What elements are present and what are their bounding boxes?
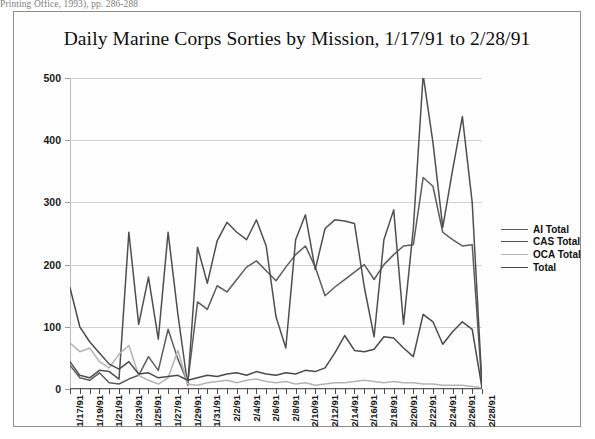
y-axis-label: 200 — [43, 259, 61, 271]
legend-color-swatch — [501, 267, 528, 268]
x-axis-tick — [423, 389, 424, 394]
x-axis-tick — [70, 389, 71, 394]
legend-label: Total — [533, 262, 556, 273]
x-axis-tick — [148, 389, 149, 394]
x-axis-tick — [90, 389, 91, 394]
chart-title: Daily Marine Corps Sorties by Mission, 1… — [14, 28, 580, 50]
plot-area: 0100200300400500 — [70, 78, 482, 389]
x-axis-tick — [305, 389, 306, 394]
x-axis-label: 2/6/91 — [270, 395, 281, 421]
x-axis-label: 1/27/91 — [172, 395, 183, 427]
x-axis-tick — [168, 389, 169, 394]
x-axis-tick — [237, 389, 238, 394]
legend-color-swatch — [501, 229, 528, 230]
x-axis-label: 1/19/91 — [94, 395, 105, 427]
x-axis-tick — [217, 389, 218, 394]
x-axis-label: 2/8/91 — [290, 395, 301, 421]
x-axis-tick — [374, 389, 375, 394]
x-axis-label: 1/23/91 — [133, 395, 144, 427]
x-axis-tick — [119, 389, 120, 394]
x-axis-tick — [80, 389, 81, 394]
x-axis-tick — [276, 389, 277, 394]
x-axis-label: 2/18/91 — [388, 395, 399, 427]
x-axis-tick — [178, 389, 179, 394]
x-axis-tick — [286, 389, 287, 394]
x-axis-label: 1/25/91 — [152, 395, 163, 427]
x-axis-tick — [109, 389, 110, 394]
legend-color-swatch — [501, 241, 528, 242]
x-axis-tick — [315, 389, 316, 394]
x-axis-tick — [413, 389, 414, 394]
x-axis-label: 1/31/91 — [211, 395, 222, 427]
legend-item: OCA Total — [501, 248, 595, 261]
x-axis-label: 1/29/91 — [192, 395, 203, 427]
y-axis-label: 400 — [43, 134, 61, 146]
x-axis-tick — [158, 389, 159, 394]
series-lines — [70, 78, 482, 389]
scan-artifact-text: Printing Office, 1993), pp. 286-288 — [0, 0, 260, 11]
x-axis-labels: 1/17/911/19/911/21/911/23/911/25/911/27/… — [70, 395, 482, 439]
x-axis-label: 1/17/91 — [74, 395, 85, 427]
legend-item: Total — [501, 261, 595, 274]
x-axis-tick — [256, 389, 257, 394]
x-axis-tick — [198, 389, 199, 394]
data-series-line — [70, 78, 482, 385]
legend-label: AI Total — [533, 224, 569, 235]
x-axis-tick — [207, 389, 208, 394]
x-axis-label: 2/26/91 — [466, 395, 477, 427]
x-axis-tick — [247, 389, 248, 394]
x-axis-tick — [335, 389, 336, 394]
x-axis-tick — [99, 389, 100, 394]
legend-label: CAS Total — [533, 236, 580, 247]
x-axis-tick — [472, 389, 473, 394]
x-axis-label: 2/20/91 — [408, 395, 419, 427]
chart-legend: AI TotalCAS TotalOCA TotalTotal — [501, 223, 595, 273]
y-axis-label: 500 — [43, 72, 61, 84]
legend-label: OCA Total — [533, 249, 581, 260]
x-axis-tick — [453, 389, 454, 394]
x-axis-label: 2/22/91 — [427, 395, 438, 427]
figure-frame: Daily Marine Corps Sorties by Mission, 1… — [13, 11, 581, 427]
x-axis-tick — [443, 389, 444, 394]
x-axis-label: 2/16/91 — [368, 395, 379, 427]
y-axis-label: 100 — [43, 321, 61, 333]
x-axis-label: 2/24/91 — [447, 395, 458, 427]
x-axis-tick — [462, 389, 463, 394]
x-axis-tick — [139, 389, 140, 394]
x-axis-tick — [266, 389, 267, 394]
data-series-line — [70, 288, 482, 388]
x-axis-tick — [433, 389, 434, 394]
x-axis-tick — [296, 389, 297, 394]
x-axis-label: 2/12/91 — [329, 395, 340, 427]
x-axis-label: 2/4/91 — [251, 395, 262, 421]
x-axis-tick — [188, 389, 189, 394]
x-axis-tick — [364, 389, 365, 394]
x-axis-tick — [227, 389, 228, 394]
y-axis-label: 300 — [43, 196, 61, 208]
legend-item: AI Total — [501, 223, 595, 236]
legend-item: CAS Total — [501, 236, 595, 249]
x-axis-tick — [345, 389, 346, 394]
x-axis-label: 2/28/91 — [486, 395, 497, 427]
x-axis-label: 2/10/91 — [309, 395, 320, 427]
x-axis-label: 2/14/91 — [349, 395, 360, 427]
x-axis-tick — [129, 389, 130, 394]
x-axis-label: 1/21/91 — [113, 395, 124, 427]
x-axis-tick — [394, 389, 395, 394]
x-axis-tick — [325, 389, 326, 394]
x-axis-tick — [482, 389, 483, 394]
x-axis-label: 2/2/91 — [231, 395, 242, 421]
legend-color-swatch — [501, 254, 528, 255]
x-axis-tick — [384, 389, 385, 394]
y-axis-label: 0 — [55, 383, 61, 395]
x-axis-tick — [354, 389, 355, 394]
x-axis-tick — [404, 389, 405, 394]
